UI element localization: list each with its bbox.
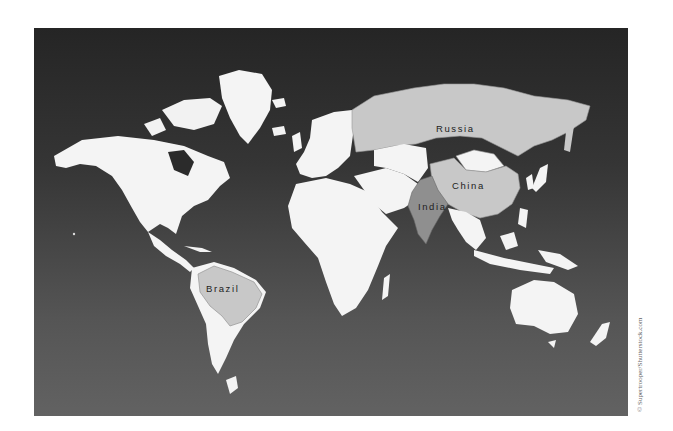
label-india: India (418, 201, 447, 212)
philippines (518, 208, 528, 228)
world-map: Russia China India Brazil (34, 28, 628, 416)
greenland (219, 70, 272, 144)
europe (296, 110, 354, 178)
image-credit: © Supertrooper/Shutterstock.com (636, 318, 644, 412)
russia (352, 84, 590, 156)
borneo (500, 232, 518, 250)
label-china: China (452, 180, 485, 191)
north-america (54, 136, 230, 234)
arctic-islands (162, 98, 222, 130)
uk (292, 132, 302, 152)
iceland (272, 98, 286, 108)
australia (510, 280, 578, 334)
japan (532, 164, 548, 192)
label-russia: Russia (436, 123, 475, 134)
central-america (148, 232, 194, 272)
map-graphic (34, 28, 628, 416)
madagascar (382, 274, 390, 300)
new-zealand (590, 322, 610, 346)
label-brazil: Brazil (206, 283, 239, 294)
tasmania (548, 340, 556, 348)
